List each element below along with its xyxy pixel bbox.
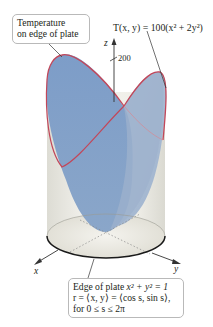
x-axis-label: x — [34, 266, 38, 276]
leader-temperature — [48, 43, 62, 57]
y-axis-label: y — [174, 264, 178, 274]
leader-edge — [88, 259, 94, 278]
z-axis-label: z — [104, 38, 108, 48]
callout-temperature-line1: Temperature — [17, 17, 85, 28]
callout-edge-line1: Edge of plate x² + y² = 1 — [73, 281, 179, 292]
callout-plate-edge: Edge of plate x² + y² = 1 r = ⟨x, y⟩ = ⟨… — [68, 278, 184, 318]
x-axis-arrow-icon — [34, 258, 42, 265]
callout-temperature: Temperature on edge of plate — [12, 14, 90, 44]
function-label: T(x, y) = 100(x² + 2y²) — [113, 22, 203, 33]
callout-edge-line3: for 0 ≤ s ≤ 2π — [73, 303, 179, 314]
z-axis-arrow-icon — [112, 38, 117, 45]
y-axis — [152, 253, 176, 262]
callout-temperature-line2: on edge of plate — [17, 28, 85, 39]
function-label-text: T(x, y) = 100(x² + 2y²) — [113, 22, 203, 33]
z-tick-mark — [110, 57, 117, 61]
callout-edge-line2: r = ⟨x, y⟩ = ⟨cos s, sin s⟩, — [73, 292, 179, 303]
z-tick-label: 200 — [118, 53, 131, 63]
